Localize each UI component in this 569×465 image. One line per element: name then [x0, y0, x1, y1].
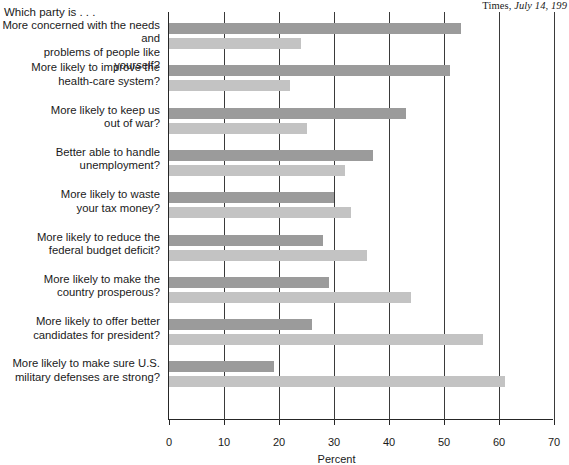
bar-series-light-8	[169, 376, 505, 387]
bar-series-dark-6	[169, 277, 329, 288]
category-label-3: Better able to handle unemployment?	[0, 146, 160, 173]
category-label-4: More likely to waste your tax money?	[0, 188, 160, 215]
source-note-prefix: Times,	[482, 0, 514, 11]
x-tick-label-40: 40	[383, 436, 395, 448]
bar-series-light-7	[169, 334, 483, 345]
x-tick-label-30: 30	[328, 436, 340, 448]
x-tick-0	[169, 420, 170, 425]
bar-series-dark-2	[169, 108, 406, 119]
bar-series-light-1	[169, 80, 290, 91]
bar-series-light-2	[169, 123, 307, 134]
bar-series-dark-7	[169, 319, 312, 330]
category-label-column: More concerned with the needs and proble…	[0, 0, 164, 457]
x-tick-label-70: 70	[548, 436, 560, 448]
bar-series-light-4	[169, 207, 351, 218]
bar-series-dark-1	[169, 65, 450, 76]
x-tick-label-10: 10	[218, 436, 230, 448]
source-note-date: July 14, 199	[514, 0, 567, 11]
x-tick-60	[499, 420, 500, 425]
bar-series-light-5	[169, 250, 367, 261]
category-label-1: More likely to improve the health-care s…	[0, 61, 160, 88]
category-label-5: More likely to reduce the federal budget…	[0, 231, 160, 258]
x-tick-label-60: 60	[493, 436, 505, 448]
gridline-60	[499, 12, 500, 420]
category-label-7: More likely to offer better candidates f…	[0, 315, 160, 342]
gridline-70	[554, 12, 555, 420]
bar-series-dark-0	[169, 23, 461, 34]
x-tick-50	[444, 420, 445, 425]
bar-series-light-0	[169, 38, 301, 49]
x-tick-70	[554, 420, 555, 425]
x-axis-title: Percent	[318, 453, 356, 465]
bar-series-dark-8	[169, 361, 274, 372]
category-label-6: More likely to make the country prospero…	[0, 273, 160, 300]
x-tick-10	[224, 420, 225, 425]
category-label-2: More likely to keep us out of war?	[0, 104, 160, 131]
bar-series-dark-4	[169, 192, 334, 203]
bar-series-dark-5	[169, 235, 323, 246]
x-tick-label-50: 50	[438, 436, 450, 448]
plot-area: 010203040506070Percent	[168, 12, 553, 420]
x-tick-label-20: 20	[273, 436, 285, 448]
x-tick-30	[334, 420, 335, 425]
x-tick-label-0: 0	[166, 436, 172, 448]
bar-series-light-6	[169, 292, 411, 303]
x-tick-40	[389, 420, 390, 425]
category-label-8: More likely to make sure U.S. military d…	[0, 357, 160, 384]
source-note: Times, July 14, 199	[482, 0, 567, 11]
x-tick-20	[279, 420, 280, 425]
bar-series-light-3	[169, 165, 345, 176]
bar-series-dark-3	[169, 150, 373, 161]
